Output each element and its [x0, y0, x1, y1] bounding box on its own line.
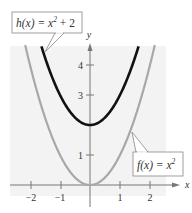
f-label: f(x) = x2: [137, 157, 176, 172]
x-axis-label: x: [184, 179, 190, 190]
x-tick-label: 1: [118, 192, 123, 203]
h-label: h(x) = x2 + 2: [16, 15, 75, 30]
y-axis-label: y: [86, 29, 92, 40]
y-tick-label: 1: [78, 150, 83, 161]
function-graph: x −2 −1 1 2 y 4 3 1 h(x) = x2 + 2 f(x) =…: [0, 0, 192, 213]
y-tick-label: 3: [78, 90, 83, 101]
y-tick-label: 4: [78, 60, 83, 71]
x-axis-arrow-icon: [172, 183, 180, 188]
x-tick-label: −2: [26, 192, 37, 203]
x-tick-label: −1: [55, 192, 66, 203]
x-tick-label: 2: [148, 192, 153, 203]
